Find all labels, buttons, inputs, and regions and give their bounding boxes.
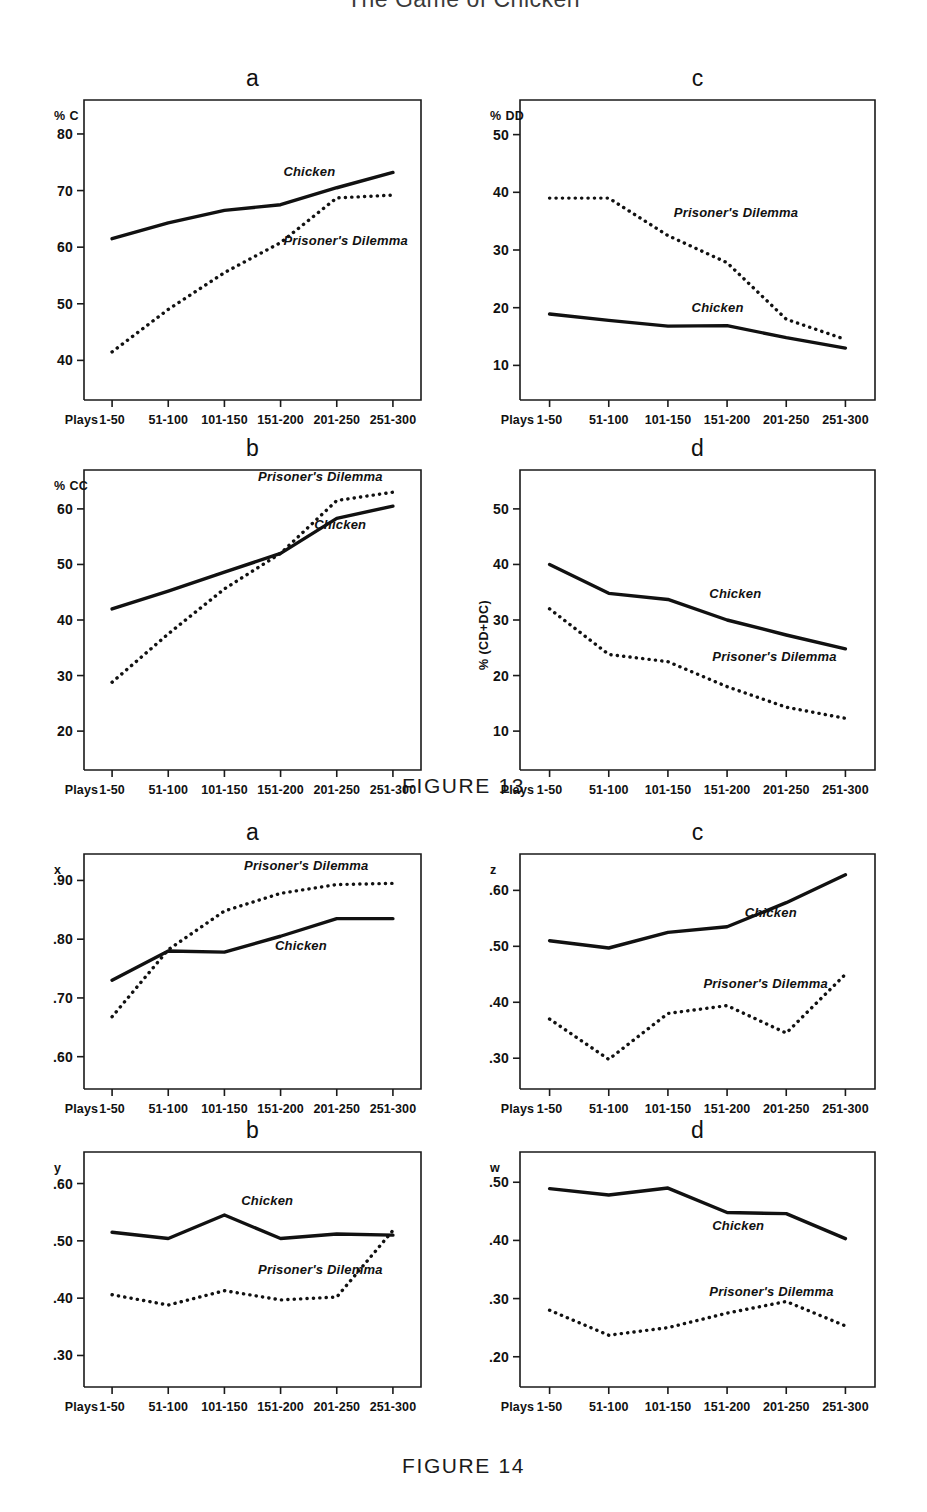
x-tick-label: 51-100 <box>148 783 188 797</box>
y-tick-label: .40 <box>489 1232 509 1248</box>
series-line-chicken <box>550 875 846 948</box>
y-tick-label: .30 <box>489 1291 509 1307</box>
series-label-prisoners-dilemma: Prisoner's Dilemma <box>244 858 368 873</box>
x-tick-label: 1-50 <box>99 1400 124 1414</box>
chart-panel-fig14-d: dw.20.30.40.501-5051-100101-150151-20020… <box>470 1114 890 1409</box>
x-axis-label: Plays <box>501 413 534 427</box>
x-tick-label: 1-50 <box>99 413 124 427</box>
x-tick-label: 101-150 <box>201 1400 248 1414</box>
running-head: The Game of Chicken <box>0 0 927 16</box>
x-axis-label: Plays <box>65 413 98 427</box>
y-axis-label: % C <box>54 109 79 123</box>
y-axis-label: w <box>489 1161 500 1175</box>
series-label-chicken: Chicken <box>745 905 797 920</box>
y-tick-label: 40 <box>493 184 509 200</box>
series-label-prisoners-dilemma: Prisoner's Dilemma <box>703 976 827 991</box>
y-tick-label: 10 <box>493 723 509 739</box>
x-tick-label: 1-50 <box>99 783 124 797</box>
series-label-chicken: Chicken <box>314 517 366 532</box>
panel-letter: a <box>246 819 259 845</box>
plot-frame <box>84 854 421 1089</box>
series-label-prisoners-dilemma: Prisoner's Dilemma <box>674 205 798 220</box>
series-label-chicken: Chicken <box>712 1218 764 1233</box>
x-tick-label: 201-250 <box>313 413 360 427</box>
chart-panel-fig14-c: cz.30.40.50.601-5051-100101-150151-20020… <box>470 816 890 1111</box>
x-tick-label: 251-300 <box>370 413 417 427</box>
plot-frame <box>520 470 875 770</box>
y-tick-label: .20 <box>489 1349 509 1365</box>
x-tick-label: 151-200 <box>257 413 304 427</box>
figure-14-caption: FIGURE 14 <box>0 1454 927 1478</box>
y-axis-label: z <box>490 863 497 877</box>
x-tick-label: 51-100 <box>148 1400 188 1414</box>
series-line-chicken <box>550 1188 846 1239</box>
y-tick-label: .60 <box>53 1049 73 1065</box>
y-tick-label: 50 <box>493 127 509 143</box>
x-tick-label: 201-250 <box>763 783 810 797</box>
series-line-prisoners-dilemma <box>112 883 393 1016</box>
y-tick-label: .50 <box>53 1233 73 1249</box>
series-label-prisoners-dilemma: Prisoner's Dilemma <box>283 233 407 248</box>
series-line-chicken <box>550 314 846 348</box>
y-tick-label: .60 <box>53 1176 73 1192</box>
y-tick-label: .40 <box>489 994 509 1010</box>
x-tick-label: 151-200 <box>257 1400 304 1414</box>
y-tick-label: 40 <box>57 612 73 628</box>
x-tick-label: 251-300 <box>822 1400 869 1414</box>
y-tick-label: 40 <box>493 556 509 572</box>
series-label-chicken: Chicken <box>275 938 327 953</box>
x-tick-label: 101-150 <box>645 783 692 797</box>
y-tick-label: .30 <box>489 1050 509 1066</box>
x-axis-label: Plays <box>65 1400 98 1414</box>
chart-panel-fig13-d: d% (CD+DC)10203040501-5051-100101-150151… <box>470 430 890 790</box>
panel-letter: b <box>246 435 259 461</box>
series-label-chicken: Chicken <box>241 1193 293 1208</box>
x-tick-label: 151-200 <box>704 783 751 797</box>
panel-letter: a <box>246 65 259 91</box>
plot-frame <box>520 854 875 1089</box>
chart-panel-fig14-b: by.30.40.50.601-5051-100101-150151-20020… <box>47 1114 447 1409</box>
y-tick-label: .50 <box>489 1174 509 1190</box>
y-tick-label: 50 <box>57 296 73 312</box>
y-tick-label: .50 <box>489 938 509 954</box>
plot-frame <box>520 1152 875 1387</box>
y-tick-label: 20 <box>493 300 509 316</box>
running-head-title: The Game of Chicken <box>347 0 580 12</box>
y-axis-label: y <box>54 1161 61 1175</box>
y-tick-label: .70 <box>53 990 73 1006</box>
x-tick-label: 251-300 <box>822 413 869 427</box>
plot-frame <box>84 100 421 400</box>
x-tick-label: 151-200 <box>257 783 304 797</box>
y-tick-label: 20 <box>57 723 73 739</box>
y-tick-label: .80 <box>53 931 73 947</box>
y-tick-label: 80 <box>57 126 73 142</box>
y-tick-label: 10 <box>493 357 509 373</box>
x-tick-label: 251-300 <box>370 783 417 797</box>
x-tick-label: 151-200 <box>704 413 751 427</box>
series-line-chicken <box>550 564 846 648</box>
y-tick-label: .90 <box>53 872 73 888</box>
series-label-prisoners-dilemma: Prisoner's Dilemma <box>258 469 382 484</box>
series-label-chicken: Chicken <box>709 586 761 601</box>
x-tick-label: 101-150 <box>201 783 248 797</box>
y-tick-label: 70 <box>57 183 73 199</box>
y-tick-label: 40 <box>57 352 73 368</box>
panel-letter: c <box>692 819 704 845</box>
y-tick-label: 50 <box>57 556 73 572</box>
y-tick-label: .60 <box>489 882 509 898</box>
y-tick-label: .40 <box>53 1290 73 1306</box>
panel-letter: d <box>691 1117 704 1143</box>
series-label-prisoners-dilemma: Prisoner's Dilemma <box>709 1284 833 1299</box>
y-tick-label: 60 <box>57 239 73 255</box>
panel-letter: d <box>691 435 704 461</box>
figure-14-block: FIGURE 14 ax.60.70.80.901-5051-100101-15… <box>0 806 927 1506</box>
x-tick-label: 101-150 <box>645 413 692 427</box>
x-tick-label: 101-150 <box>645 1400 692 1414</box>
panel-letter: b <box>246 1117 259 1143</box>
y-axis-label: % CC <box>54 479 88 493</box>
plot-frame <box>520 100 875 400</box>
x-tick-label: 101-150 <box>201 413 248 427</box>
series-line-chicken <box>112 172 393 238</box>
x-tick-label: 201-250 <box>763 413 810 427</box>
series-line-chicken <box>112 1215 393 1239</box>
